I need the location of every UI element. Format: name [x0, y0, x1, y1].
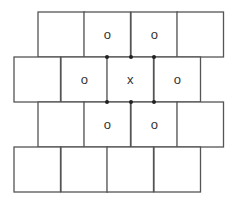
vertex-dot [129, 55, 133, 59]
neighbor-cell-label: o [151, 27, 158, 42]
neighbor-cell-label: o [104, 27, 111, 42]
grid-cell [14, 147, 61, 192]
neighbor-cell-label: o [81, 72, 88, 87]
neighbor-cell-label: o [104, 117, 111, 132]
grid-cell [177, 12, 224, 57]
vertex-dot [105, 100, 109, 104]
center-cell-label: x [127, 72, 134, 87]
vertex-dot [129, 100, 133, 104]
grid-cell [14, 57, 61, 102]
vertex-dot [152, 55, 156, 59]
grid-cell [38, 102, 85, 147]
grid-cell [154, 147, 201, 192]
grid-cell [107, 147, 154, 192]
grid-cell [61, 147, 108, 192]
vertex-dot [152, 100, 156, 104]
hex-neighbor-grid-diagram: oooxooo [0, 0, 234, 201]
grid-cell [177, 102, 224, 147]
vertex-dot [105, 55, 109, 59]
grid-cell [38, 12, 85, 57]
grid-cells: oooxooo [14, 12, 224, 192]
neighbor-cell-label: o [151, 117, 158, 132]
neighbor-cell-label: o [174, 72, 181, 87]
